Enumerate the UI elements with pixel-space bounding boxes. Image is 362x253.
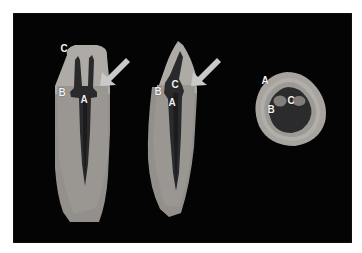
cej-arrow-middle (190, 54, 224, 88)
label-left-B: B (56, 88, 68, 98)
label-left-C: C (58, 44, 70, 54)
figure-root: C B A B C A A B C (0, 0, 362, 253)
label-cross-A: A (259, 76, 271, 86)
label-cross-B: B (265, 105, 277, 115)
imaging-field: C B A B C A A B C (13, 13, 352, 243)
tooth-cross-section-svg (241, 66, 341, 156)
label-left-A: A (78, 95, 90, 105)
label-middle-B: B (152, 87, 164, 97)
label-middle-A: A (166, 98, 178, 108)
arrow-middle-svg (190, 54, 224, 88)
arrow-left-glyph (100, 58, 130, 86)
arrow-left-svg (99, 54, 133, 88)
arrow-middle-glyph (191, 58, 221, 86)
label-middle-C: C (169, 80, 181, 90)
label-cross-C: C (285, 96, 297, 106)
specimen-cross-section-right (241, 66, 341, 156)
cej-arrow-left (99, 54, 133, 88)
